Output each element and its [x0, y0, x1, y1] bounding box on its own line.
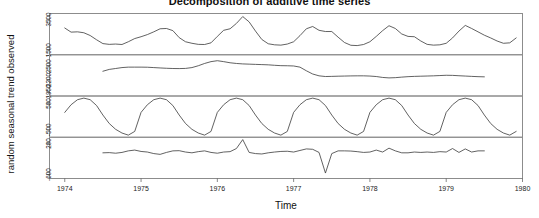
series-trend	[103, 61, 484, 78]
panel-trend: 195022002500	[45, 55, 523, 99]
decomposition-chart: Decomposition of additive time series 15…	[0, 0, 539, 218]
xtick-label: 1974	[57, 185, 73, 192]
plot-canvas: 15003500195022002500-500500-600200 19741…	[0, 0, 539, 218]
ytick-label: 500	[45, 98, 52, 109]
ytick-label: -500	[45, 123, 52, 136]
panel-seasonal: -500500	[45, 96, 523, 137]
panel-random: -600200	[45, 137, 523, 181]
ytick-label: 2500	[45, 59, 52, 74]
series-seasonal	[65, 98, 516, 135]
ytick-label: 200	[45, 138, 52, 149]
xtick-label: 1979	[438, 185, 454, 192]
xtick-label: 1980	[515, 185, 531, 192]
series-observed	[65, 17, 516, 46]
series-random	[103, 140, 484, 173]
ytick-label: 2200	[45, 72, 52, 87]
xtick-label: 1976	[210, 185, 226, 192]
xtick-label: 1977	[286, 185, 302, 192]
panel-observed: 15003500	[45, 12, 523, 57]
ytick-label: -600	[45, 168, 52, 181]
axis-group: 1974197519761977197819791980	[57, 179, 530, 192]
panels-group: 15003500195022002500-500500-600200	[45, 12, 523, 181]
xtick-label: 1978	[362, 185, 378, 192]
ytick-label: 3500	[45, 12, 52, 27]
xtick-label: 1975	[133, 185, 149, 192]
